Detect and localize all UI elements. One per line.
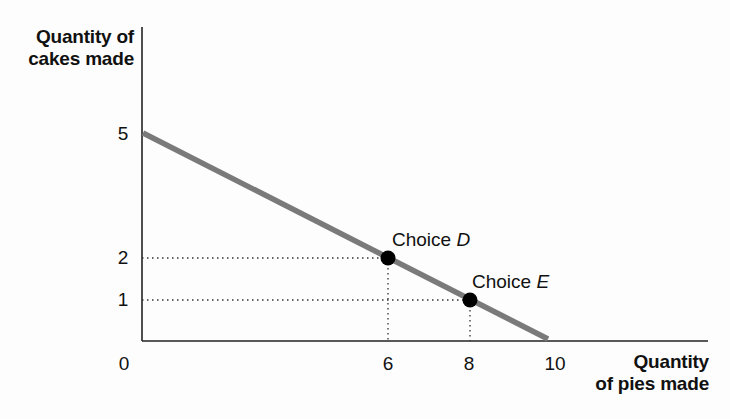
x-tick-6: 6 bbox=[368, 354, 408, 374]
y-axis-title-line2: cakes made bbox=[14, 48, 134, 70]
x-tick-8: 8 bbox=[449, 354, 489, 374]
x-axis-title-line1: Quantity bbox=[560, 351, 709, 373]
origin-label: 0 bbox=[104, 354, 144, 374]
choice-d-point bbox=[381, 251, 396, 266]
y-axis-title-line1: Quantity of bbox=[14, 26, 134, 48]
x-axis-title-line2: of pies made bbox=[560, 373, 709, 395]
y-tick-5: 5 bbox=[103, 124, 143, 144]
choice-e-prefix: Choice bbox=[472, 271, 536, 292]
choice-e-label: Choice E bbox=[472, 272, 549, 292]
choice-d-label: Choice D bbox=[392, 230, 470, 250]
choice-d-letter: D bbox=[456, 229, 470, 250]
choice-e-letter: E bbox=[536, 271, 549, 292]
y-tick-2: 2 bbox=[103, 248, 143, 268]
y-tick-1: 1 bbox=[103, 290, 143, 310]
x-axis-title: Quantity of pies made bbox=[560, 351, 709, 395]
x-tick-10: 10 bbox=[535, 354, 575, 374]
ppf-chart: Quantity of cakes made Quantity of pies … bbox=[0, 0, 730, 419]
frontier-line bbox=[143, 133, 548, 339]
y-axis-title: Quantity of cakes made bbox=[14, 26, 134, 70]
choice-d-prefix: Choice bbox=[392, 229, 456, 250]
choice-e-point bbox=[463, 293, 478, 308]
